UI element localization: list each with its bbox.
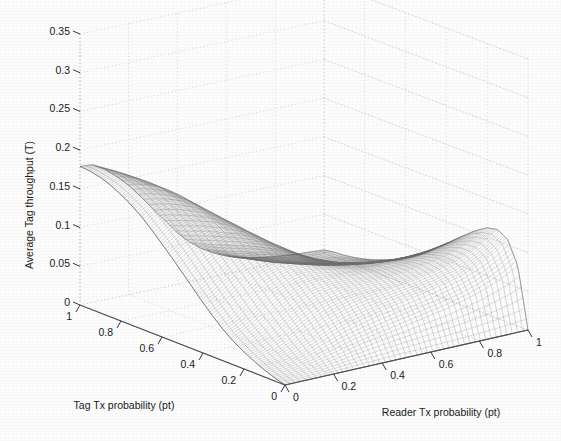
plot-canvas: 0.350.30.250.20.150.10.05010.80.60.40.20…: [0, 0, 561, 441]
z-axis-title: Average Tag throughput (T): [23, 141, 35, 269]
tick-label: 0.15: [50, 180, 71, 192]
tick-label: 0.1: [55, 219, 70, 231]
tick-label: 0.3: [55, 64, 70, 76]
tick-label: 0: [293, 391, 299, 403]
tick-label: 0: [271, 390, 277, 402]
tick-label: 0.2: [55, 141, 70, 153]
surface-plot-figure: 0.350.30.250.20.150.10.05010.80.60.40.20…: [0, 0, 561, 441]
tick-label: 0.2: [342, 380, 357, 392]
x-axis-title: Tag Tx probability (pt): [74, 399, 175, 411]
tick-label: 0.6: [139, 342, 154, 354]
tick-label: 0.2: [221, 374, 236, 386]
y-axis-title: Reader Tx probability (pt): [382, 406, 500, 418]
tick-label: 1: [536, 336, 542, 348]
tick-label: 0: [64, 296, 70, 308]
tick-label: 0.05: [50, 257, 71, 269]
tick-label: 1: [66, 310, 72, 322]
tick-label: 0.4: [390, 369, 405, 381]
tick-label: 0.8: [98, 326, 113, 338]
figure-background: [0, 0, 561, 441]
tick-label: 0.4: [180, 358, 195, 370]
tick-label: 0.25: [50, 102, 71, 114]
tick-label: 0.8: [487, 347, 502, 359]
tick-label: 0.35: [50, 25, 71, 37]
tick-label: 0.6: [439, 358, 454, 370]
